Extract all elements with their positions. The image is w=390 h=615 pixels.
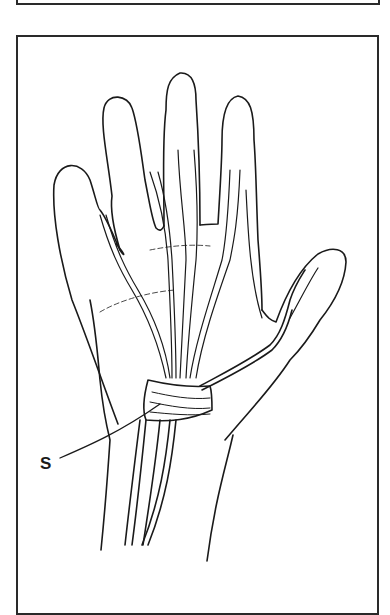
ring-finger-outline <box>103 97 164 250</box>
wrist-radial-edge <box>207 435 233 561</box>
little-finger-outline <box>54 166 124 424</box>
palm-ulnar-edge <box>90 300 110 550</box>
label-s: S <box>40 454 51 474</box>
thumb-outline <box>225 249 346 440</box>
